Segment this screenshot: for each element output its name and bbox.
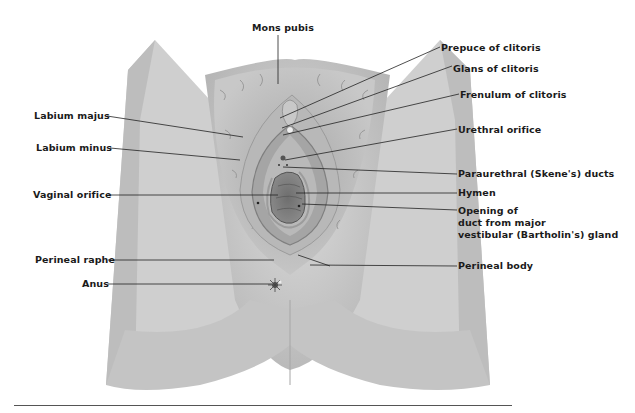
- anus-shape: [268, 278, 282, 292]
- label-glans-of-clitoris: Glans of clitoris: [453, 63, 539, 74]
- label-urethral-orifice: Urethral orifice: [458, 124, 541, 135]
- label-mons-pubis: Mons pubis: [252, 22, 314, 33]
- label-anus: Anus: [82, 278, 109, 289]
- label-paraurethral-ducts: Paraurethral (Skene's) ducts: [458, 168, 614, 179]
- label-perineal-body: Perineal body: [458, 260, 533, 271]
- urethral-orifice-shape: [281, 156, 286, 161]
- label-bartholin-duct-opening: Opening of duct from major vestibular (B…: [458, 205, 618, 241]
- label-vaginal-orifice: Vaginal orifice: [33, 189, 111, 200]
- label-hymen: Hymen: [458, 187, 496, 198]
- bottom-divider: [14, 405, 512, 406]
- label-perineal-raphe: Perineal raphe: [35, 254, 115, 265]
- label-prepuce-of-clitoris: Prepuce of clitoris: [441, 42, 541, 53]
- label-frenulum-of-clitoris: Frenulum of clitoris: [460, 89, 567, 100]
- label-labium-minus: Labium minus: [36, 142, 112, 153]
- label-labium-majus: Labium majus: [34, 110, 110, 121]
